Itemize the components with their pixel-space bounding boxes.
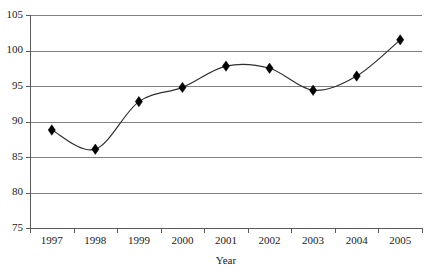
y-tick-label-85: 85 bbox=[12, 150, 24, 162]
x-tick-label-1998: 1998 bbox=[84, 234, 107, 246]
line-chart: 7580859095100105 19971998199920002001200… bbox=[0, 0, 429, 278]
x-tick-label-2002: 2002 bbox=[259, 234, 281, 246]
x-tick-label-2001: 2001 bbox=[215, 234, 237, 246]
x-tick-label-group: 199719981999200020012002200320042005 bbox=[41, 234, 412, 246]
y-tick-label-75: 75 bbox=[12, 221, 24, 233]
x-tick-label-2003: 2003 bbox=[302, 234, 325, 246]
y-tick-label-80: 80 bbox=[12, 185, 24, 197]
x-tick-label-2000: 2000 bbox=[171, 234, 194, 246]
y-tick-label-105: 105 bbox=[7, 8, 24, 20]
y-tick-label-100: 100 bbox=[7, 43, 24, 55]
x-axis-title: Year bbox=[216, 254, 237, 266]
x-tick-label-2005: 2005 bbox=[389, 234, 412, 246]
chart-canvas: 7580859095100105 19971998199920002001200… bbox=[0, 0, 429, 278]
x-tick-label-1999: 1999 bbox=[128, 234, 151, 246]
x-tick-label-1997: 1997 bbox=[41, 234, 64, 246]
y-tick-label-90: 90 bbox=[12, 114, 24, 126]
y-tick-label-95: 95 bbox=[12, 79, 24, 91]
x-tick-label-2004: 2004 bbox=[346, 234, 369, 246]
